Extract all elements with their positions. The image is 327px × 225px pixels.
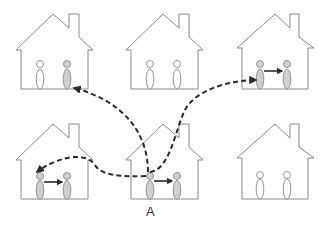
house-top-right — [237, 14, 314, 89]
person-right-infected — [63, 61, 71, 90]
person-left-infected — [256, 61, 264, 90]
person-left — [256, 172, 264, 200]
person-right-infected — [63, 173, 71, 200]
house-top-middle — [126, 14, 203, 89]
house-bottom-left — [16, 124, 93, 200]
person-left — [36, 61, 44, 90]
person-right — [173, 61, 181, 90]
person-right-infected — [283, 61, 291, 90]
house-outline — [16, 14, 93, 89]
house-outline — [237, 124, 314, 199]
house-bottom-right — [237, 124, 314, 199]
house-outline — [126, 14, 203, 89]
index-case-label: A — [146, 204, 155, 219]
house-outline — [16, 124, 93, 199]
transmission-diagram: A — [0, 0, 327, 225]
person-right-infected — [173, 173, 181, 200]
person-index-case-a — [146, 173, 154, 200]
house-top-left — [16, 14, 93, 89]
person-left — [146, 61, 154, 90]
person-left-infected — [36, 173, 44, 200]
person-right — [283, 172, 291, 200]
house-outline — [237, 14, 314, 89]
